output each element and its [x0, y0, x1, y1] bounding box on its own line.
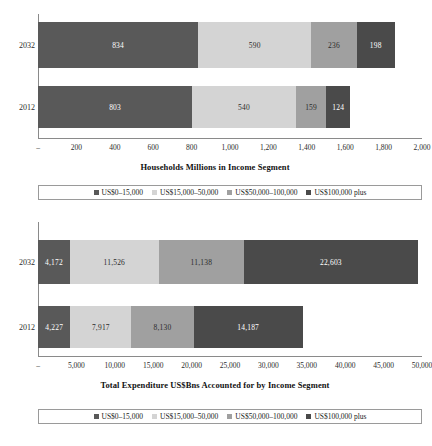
- x-axis-tick-label: 35,000: [296, 361, 317, 370]
- bar-segment: 834: [38, 22, 198, 68]
- x-axis-tick-label: 2,000: [414, 143, 431, 152]
- legend-item-label: US$15,000–50,000: [160, 412, 218, 421]
- bar-segment: 4,172: [38, 240, 70, 284]
- bar-segment-value-label: 124: [332, 103, 344, 112]
- x-axis-line: [38, 356, 422, 357]
- x-axis-tick-label: 1,800: [375, 143, 392, 152]
- legend-item-label: US$15,000–50,000: [160, 188, 218, 197]
- legend-item[interactable]: US$15,000–50,000: [152, 412, 218, 421]
- legend-item[interactable]: US$50,000–100,000: [227, 188, 297, 197]
- x-axis-tick-label: 1,000: [222, 143, 239, 152]
- bar-segment-value-label: 834: [112, 41, 124, 50]
- legend-item[interactable]: US$0–15,000: [94, 188, 143, 197]
- bar-segment-value-label: 11,138: [191, 258, 213, 267]
- legend-swatch-icon: [94, 414, 99, 419]
- legend-item[interactable]: US$15,000–50,000: [152, 188, 218, 197]
- bar-row: 20124,2277,9178,13014,187: [38, 306, 422, 348]
- x-axis-tick-label: 45,000: [373, 361, 394, 370]
- legend-swatch-icon: [152, 190, 157, 195]
- x-axis-tick-label: 800: [186, 143, 197, 152]
- bar-segment-value-label: 4,227: [45, 323, 63, 332]
- x-axis-tick-label: –: [36, 361, 40, 370]
- legend-item-label: US$100,000 plus: [314, 412, 366, 421]
- bar-segment-value-label: 7,917: [92, 323, 110, 332]
- bar-segment: 159: [296, 86, 327, 128]
- expenditure-bar-rows: 20324,17211,52611,13822,60320124,2277,91…: [38, 222, 422, 356]
- bar-segment-value-label: 540: [238, 103, 250, 112]
- bar-segment: 236: [311, 22, 356, 68]
- legend-item[interactable]: US$50,000–100,000: [227, 412, 297, 421]
- bar-segment: 540: [192, 86, 296, 128]
- bar-segment: 11,526: [70, 240, 159, 284]
- legend-swatch-icon: [94, 190, 99, 195]
- bar-segment: 198: [357, 22, 395, 68]
- bar-segment: 8,130: [131, 306, 193, 348]
- bar-row: 20324,17211,52611,13822,603: [38, 240, 422, 284]
- legend-swatch-icon: [306, 190, 311, 195]
- bar-segment-value-label: 22,603: [320, 258, 342, 267]
- bar-segment: 803: [38, 86, 192, 128]
- expenditure-legend: US$0–15,000US$15,000–50,000US$50,000–100…: [38, 409, 422, 424]
- bar-segment: 124: [326, 86, 350, 128]
- x-axis-tick-label: 1,200: [260, 143, 277, 152]
- x-axis-tick-label: 5,000: [68, 361, 85, 370]
- legend-item-label: US$0–15,000: [102, 188, 143, 197]
- legend-item[interactable]: US$100,000 plus: [306, 188, 366, 197]
- x-axis-tick-label: 600: [148, 143, 159, 152]
- x-axis-tick-label: 25,000: [220, 361, 241, 370]
- x-axis-tick-label: 20,000: [181, 361, 202, 370]
- legend-item-label: US$100,000 plus: [314, 188, 366, 197]
- bar-segment-value-label: 8,130: [154, 323, 172, 332]
- bar-segment-value-label: 4,172: [45, 258, 63, 267]
- x-axis-tick-label: 200: [71, 143, 82, 152]
- bar-segment-value-label: 803: [109, 103, 121, 112]
- households-chart-title: Households Millions in Income Segment: [0, 162, 430, 172]
- bar-segment: 590: [198, 22, 311, 68]
- x-axis-tick-label: –: [36, 143, 40, 152]
- expenditure-x-ticks: –5,00010,00015,00020,00025,00030,00035,0…: [38, 361, 422, 375]
- bar-segment-value-label: 198: [370, 41, 382, 50]
- bar-segment-value-label: 590: [249, 41, 261, 50]
- households-x-ticks: –2004006008001,0001,2001,4001,6001,8002,…: [38, 143, 422, 157]
- expenditure-chart: 20324,17211,52611,13822,60320124,2277,91…: [0, 222, 430, 402]
- bar-row-category-label: 2032: [19, 258, 35, 267]
- x-axis-tick-label: 50,000: [412, 361, 432, 370]
- bar-row-category-label: 2012: [19, 323, 35, 332]
- bar-segment-value-label: 11,526: [104, 258, 126, 267]
- bar-row-category-label: 2032: [19, 41, 35, 50]
- legend-swatch-icon: [227, 190, 232, 195]
- bar-segment: 11,138: [159, 240, 245, 284]
- bar-segment: 14,187: [194, 306, 303, 348]
- bar-row: 2012803540159124: [38, 86, 422, 128]
- households-plot-area: 20328345902361982012803540159124: [0, 10, 430, 138]
- legend-item-label: US$50,000–100,000: [235, 412, 297, 421]
- legend-swatch-icon: [306, 414, 311, 419]
- bar-segment-value-label: 159: [305, 103, 317, 112]
- x-axis-tick-label: 1,400: [298, 143, 315, 152]
- households-legend: US$0–15,000US$15,000–50,000US$50,000–100…: [38, 185, 422, 200]
- legend-swatch-icon: [227, 414, 232, 419]
- expenditure-chart-title: Total Expenditure US$Bns Accounted for b…: [0, 380, 430, 390]
- x-axis-tick-label: 10,000: [104, 361, 125, 370]
- x-axis-tick-label: 30,000: [258, 361, 279, 370]
- bar-segment: 4,227: [38, 306, 70, 348]
- households-chart: 20328345902361982012803540159124 –200400…: [0, 10, 430, 175]
- households-bar-rows: 20328345902361982012803540159124: [38, 10, 422, 138]
- legend-item-label: US$50,000–100,000: [235, 188, 297, 197]
- expenditure-plot-area: 20324,17211,52611,13822,60320124,2277,91…: [0, 222, 430, 356]
- bar-segment-value-label: 14,187: [237, 323, 259, 332]
- bar-segment: 7,917: [70, 306, 131, 348]
- legend-item[interactable]: US$0–15,000: [94, 412, 143, 421]
- x-axis-tick-label: 15,000: [143, 361, 164, 370]
- bar-row: 2032834590236198: [38, 22, 422, 68]
- bar-segment: 22,603: [244, 240, 418, 284]
- x-axis-tick-label: 40,000: [335, 361, 356, 370]
- bar-segment-value-label: 236: [328, 41, 340, 50]
- x-axis-tick-label: 400: [109, 143, 120, 152]
- legend-item-label: US$0–15,000: [102, 412, 143, 421]
- bar-row-category-label: 2012: [19, 103, 35, 112]
- legend-item[interactable]: US$100,000 plus: [306, 412, 366, 421]
- legend-swatch-icon: [152, 414, 157, 419]
- x-axis-line: [38, 138, 422, 139]
